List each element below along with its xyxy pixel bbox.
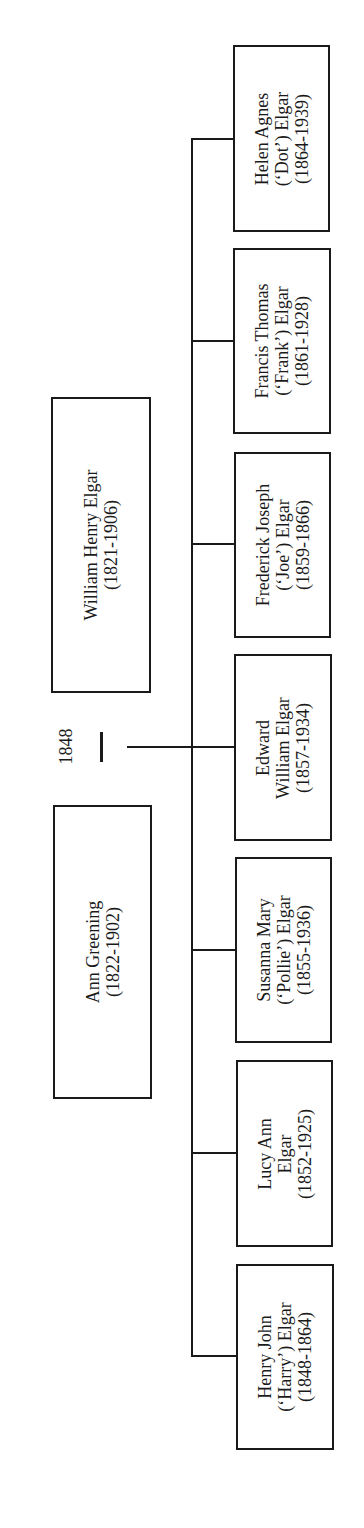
child-label-francis: Francis Thomas (‘Frank’) Elgar (1861-192…	[252, 283, 312, 398]
name-text: Francis Thomas	[252, 283, 272, 398]
parent-label-william: William Henry Elgar (1821-1906)	[81, 469, 121, 620]
name-text: Susanna Mary	[254, 895, 274, 1004]
dates-text: (1852-1925)	[295, 1109, 315, 1199]
child-label-lucy: Lucy Ann Elgar (1852-1925)	[255, 1109, 315, 1199]
nickname-text: (‘Pollie’) Elgar	[274, 895, 294, 1004]
dates-text: (1855-1936)	[294, 895, 314, 1004]
parent-box-william: William Henry Elgar (1821-1906)	[51, 397, 151, 693]
name-text-2: William Elgar	[273, 697, 293, 799]
connector-susanna	[193, 949, 235, 951]
dates-text: (1864-1939)	[292, 91, 312, 185]
name-text: William Henry Elgar	[81, 469, 101, 620]
sibling-bar	[191, 138, 193, 1357]
child-label-helen: Helen Agnes (‘Dot’) Elgar (1864-1939)	[252, 91, 312, 185]
connector-frederick	[192, 543, 234, 545]
nickname-text: (‘Dot’) Elgar	[272, 91, 292, 185]
name-text: Edward	[253, 697, 273, 799]
dates-text: (1861-1928)	[292, 283, 312, 398]
child-label-edward: Edward William Elgar (1857-1934)	[253, 697, 313, 799]
marriage-marker	[100, 732, 103, 762]
child-box-helen: Helen Agnes (‘Dot’) Elgar (1864-1939)	[233, 45, 330, 232]
name-text: Frederick Joseph	[253, 484, 273, 606]
child-box-edward: Edward William Elgar (1857-1934)	[234, 654, 332, 841]
parent-box-ann: Ann Greening (1822-1902)	[53, 805, 152, 1099]
child-label-susanna: Susanna Mary (‘Pollie’) Elgar (1855-1936…	[254, 895, 314, 1004]
connector-helen	[191, 138, 234, 140]
child-box-lucy: Lucy Ann Elgar (1852-1925)	[236, 1060, 333, 1247]
nickname-text: (‘Frank’) Elgar	[272, 283, 292, 398]
name-text: Lucy Ann	[255, 1109, 275, 1199]
connector-francis	[191, 340, 234, 342]
child-label-henry: Henry John (‘Harry’) Elgar (1848-1864)	[255, 1302, 315, 1411]
name-text: Helen Agnes	[252, 91, 272, 185]
nickname-text: (‘Joe’) Elgar	[273, 484, 293, 606]
connector-henry	[193, 1355, 236, 1357]
descent-line	[127, 746, 235, 748]
name-text-2: Elgar	[275, 1109, 295, 1199]
dates-text: (1848-1864)	[295, 1302, 315, 1411]
child-box-susanna: Susanna Mary (‘Pollie’) Elgar (1855-1936…	[235, 857, 332, 1043]
child-box-frederick: Frederick Joseph (‘Joe’) Elgar (1859-186…	[234, 452, 331, 638]
dates-text: (1859-1866)	[293, 484, 313, 606]
parent-label-ann: Ann Greening (1822-1902)	[83, 901, 123, 1003]
name-text: Henry John	[255, 1302, 275, 1411]
connector-lucy	[193, 1152, 236, 1154]
child-label-frederick: Frederick Joseph (‘Joe’) Elgar (1859-186…	[253, 484, 313, 606]
child-box-francis: Francis Thomas (‘Frank’) Elgar (1861-192…	[233, 248, 331, 434]
name-text: Ann Greening	[83, 901, 103, 1003]
dates-text: (1821-1906)	[101, 469, 121, 620]
nickname-text: (‘Harry’) Elgar	[275, 1302, 295, 1411]
marriage-year: 1848	[56, 729, 77, 765]
child-box-henry: Henry John (‘Harry’) Elgar (1848-1864)	[236, 1264, 334, 1450]
dates-text: (1857-1934)	[293, 697, 313, 799]
dates-text: (1822-1902)	[103, 901, 123, 1003]
